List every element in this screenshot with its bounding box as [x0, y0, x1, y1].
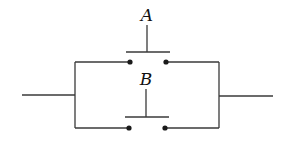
- parallel-circuit-diagram: A B: [0, 0, 290, 144]
- switch-b: B: [125, 69, 169, 131]
- switch-b-label: B: [139, 69, 153, 89]
- switch-b-left-contact: [126, 125, 131, 130]
- switch-a-left-contact: [127, 59, 132, 64]
- switch-a-right-contact: [163, 59, 168, 64]
- switch-a: A: [126, 5, 170, 65]
- switch-b-right-contact: [162, 125, 167, 130]
- switch-a-label: A: [139, 5, 153, 25]
